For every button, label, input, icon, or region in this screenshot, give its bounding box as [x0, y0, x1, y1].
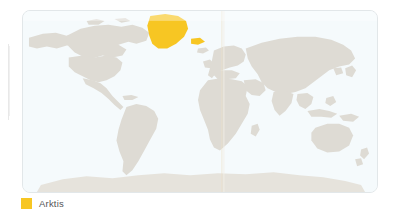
world-map-figure: Arktis — [0, 0, 404, 214]
legend-label-arktis: Arktis — [39, 198, 64, 209]
map-panel — [22, 10, 378, 193]
page-edge-artifact-secondary — [9, 46, 10, 116]
world-map-svg — [23, 11, 377, 192]
legend-swatch-arktis — [21, 198, 32, 209]
map-legend: Arktis — [21, 198, 64, 209]
scan-haze-top — [23, 11, 377, 21]
